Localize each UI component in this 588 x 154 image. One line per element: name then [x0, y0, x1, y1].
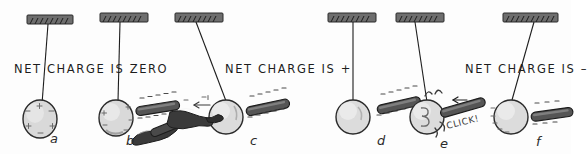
- charged-rod-f: [531, 107, 574, 122]
- ceiling-bracket-f: [503, 13, 558, 22]
- suspension-thread-e: [415, 22, 427, 102]
- ceiling-bracket-a: [27, 15, 73, 24]
- ball-charge-marks-c: [184, 96, 208, 101]
- panel-c: [168, 0, 298, 154]
- electron-flow-arrow-c: [194, 102, 210, 108]
- ceiling-bracket-c: [175, 13, 223, 22]
- suspension-thread-f: [512, 22, 534, 100]
- ceiling-bracket-b: [100, 13, 148, 22]
- pith-ball-b: [99, 100, 134, 136]
- suspension-thread-c: [196, 22, 226, 101]
- panel-label-d: d: [377, 133, 386, 148]
- ceiling-bracket-e: [396, 13, 444, 22]
- caption-net-charge-positive: NET CHARGE IS +: [225, 62, 352, 76]
- caption-net-charge-zero: NET CHARGE IS ZERO: [14, 62, 168, 76]
- panel-label-c: c: [250, 133, 258, 148]
- pith-ball-d: [336, 100, 370, 134]
- ceiling-bracket-d: [328, 13, 376, 22]
- pith-ball-f: [491, 100, 528, 134]
- panel-label-b: b: [126, 133, 135, 148]
- panel-label-a: a: [50, 131, 58, 146]
- pith-ball-e: [410, 100, 444, 134]
- panel-f: [485, 0, 571, 154]
- caption-net-charge-negative: NET CHARGE IS –: [465, 62, 588, 76]
- panel-label-f: f: [536, 134, 541, 149]
- panel-label-e: e: [440, 136, 449, 151]
